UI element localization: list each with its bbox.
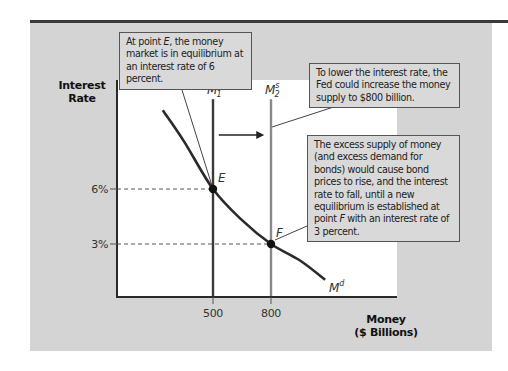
annotation-text: The excess supply of money (and excess d… xyxy=(314,139,448,224)
point-label-f: F xyxy=(276,226,284,240)
point-label-e: E xyxy=(218,171,226,185)
annotation-text: To lower the interest rate, the Fed coul… xyxy=(316,67,450,103)
annotation-excess-supply: The excess supply of money (and excess d… xyxy=(307,135,460,242)
x-tick-label: 500 xyxy=(203,307,223,320)
annotation-fed-increase-supply: To lower the interest rate, the Fed coul… xyxy=(309,63,460,108)
curve-label-superscript: s xyxy=(275,81,279,90)
annotation-equilibrium-e: At point E, the money market is in equil… xyxy=(119,32,252,90)
x-tick-label: 800 xyxy=(261,307,281,320)
curve-label-subscript: 1 xyxy=(217,90,222,99)
curve-label-m2s: Ms2 xyxy=(265,81,280,99)
y-tick-label: 3% xyxy=(91,238,108,251)
equilibrium-point-f xyxy=(267,240,275,248)
y-tick-label: 6% xyxy=(91,183,108,196)
equilibrium-point-e xyxy=(209,185,217,193)
curve-label-subscript: 2 xyxy=(275,90,280,99)
annotation-text: At point xyxy=(126,36,164,47)
